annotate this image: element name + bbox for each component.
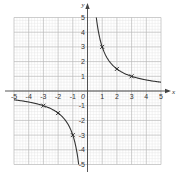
x-tick-label: 5 bbox=[159, 93, 163, 100]
x-tick-label: -4 bbox=[26, 93, 32, 100]
origin-label: 0 bbox=[81, 93, 85, 100]
y-axis-label: y bbox=[81, 1, 86, 9]
x-tick-label: -5 bbox=[11, 93, 17, 100]
x-axis-label: x bbox=[171, 88, 176, 96]
y-tick-label: 5 bbox=[81, 14, 85, 21]
x-tick-label: 2 bbox=[115, 93, 119, 100]
x-tick-label: 3 bbox=[130, 93, 134, 100]
y-tick-label: -1 bbox=[79, 102, 85, 109]
x-tick-label: 1 bbox=[100, 93, 104, 100]
x-tick-label: -3 bbox=[40, 93, 46, 100]
x-tick-label: -1 bbox=[70, 93, 76, 100]
y-tick-label: -3 bbox=[79, 132, 85, 139]
x-axis-arrow-icon bbox=[165, 89, 171, 93]
y-axis-arrow-icon bbox=[85, 3, 89, 9]
x-tick-label: 4 bbox=[144, 93, 148, 100]
x-tick-label: -2 bbox=[55, 93, 61, 100]
y-tick-label: -2 bbox=[79, 117, 85, 124]
y-tick-label: 1 bbox=[81, 73, 85, 80]
y-tick-label: 2 bbox=[81, 58, 85, 65]
y-tick-label: 3 bbox=[81, 43, 85, 50]
hyperbola-graph: xy -5-4-3-2-11234554321-1-2-3-4-50 bbox=[0, 0, 179, 177]
y-tick-label: -4 bbox=[79, 146, 85, 153]
y-tick-label: -5 bbox=[79, 161, 85, 168]
y-tick-label: 4 bbox=[81, 29, 85, 36]
